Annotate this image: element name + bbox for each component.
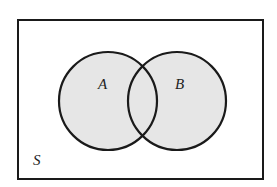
- set-a-label: A: [97, 76, 108, 92]
- universe-label: S: [33, 152, 41, 168]
- venn-diagram: A B S: [0, 0, 277, 187]
- set-b-label: B: [175, 76, 184, 92]
